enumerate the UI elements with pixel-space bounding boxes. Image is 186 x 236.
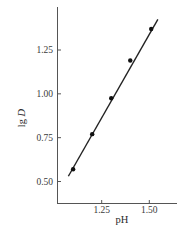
- chart: 0.500.751.001.25 1.251.50 pH lg D: [0, 0, 186, 236]
- y-axis-label-variable: D: [16, 108, 27, 117]
- data-point: [109, 96, 113, 100]
- x-tick-label: 1.50: [141, 205, 158, 215]
- y-tick-label: 1.00: [36, 89, 53, 99]
- x-ticks: 1.251.50: [93, 200, 157, 215]
- y-tick-label: 0.50: [36, 177, 53, 187]
- data-point: [128, 58, 132, 62]
- x-tick-label: 1.25: [93, 205, 110, 215]
- data-point: [71, 167, 75, 171]
- axes: [58, 7, 178, 204]
- y-axis-label-prefix: lg: [16, 116, 27, 127]
- x-axis-label: pH: [116, 214, 129, 225]
- data-point: [149, 27, 153, 31]
- data-point: [90, 132, 94, 136]
- y-tick-label: 0.75: [36, 133, 53, 143]
- y-tick-label: 1.25: [36, 45, 53, 55]
- y-axis-label: lg D: [16, 108, 27, 127]
- data-series: [68, 19, 157, 176]
